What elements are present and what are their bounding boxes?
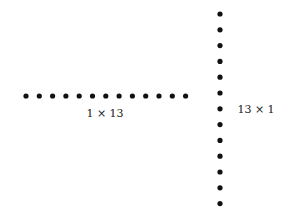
dot: [217, 11, 222, 16]
dot: [217, 201, 222, 206]
row-array-dots: [23, 93, 188, 98]
dot: [103, 93, 108, 98]
dot: [217, 138, 222, 143]
dot: [217, 75, 222, 80]
dot: [77, 93, 82, 98]
dot: [23, 93, 28, 98]
dot: [217, 185, 222, 190]
dot: [217, 27, 222, 32]
dot: [37, 93, 42, 98]
array-diagram: 1 × 13 13 × 1: [0, 0, 288, 220]
dot: [217, 59, 222, 64]
dot: [217, 154, 222, 159]
dot: [217, 122, 222, 127]
dot: [217, 169, 222, 174]
dot: [170, 93, 175, 98]
row-array-label: 1 × 13: [86, 107, 123, 120]
dot: [217, 90, 222, 95]
dot: [117, 93, 122, 98]
dot: [90, 93, 95, 98]
dot: [50, 93, 55, 98]
dot: [143, 93, 148, 98]
dot: [217, 106, 222, 111]
dot: [217, 43, 222, 48]
dot: [156, 93, 161, 98]
column-array-label: 13 × 1: [237, 103, 274, 116]
column-array-dots: [217, 11, 222, 206]
dot: [183, 93, 188, 98]
dot: [63, 93, 68, 98]
dot: [130, 93, 135, 98]
